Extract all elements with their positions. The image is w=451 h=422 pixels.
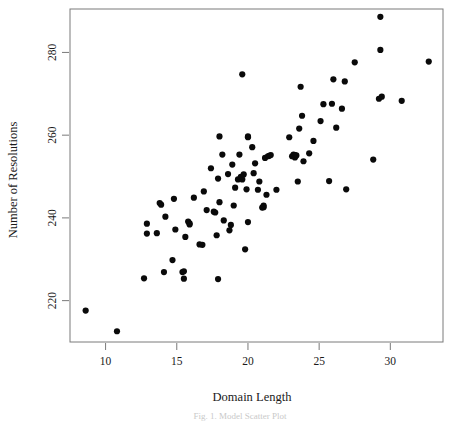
data-point [377, 47, 383, 53]
data-point [352, 59, 358, 65]
data-point [261, 202, 267, 208]
data-point [161, 269, 167, 275]
data-point [228, 222, 234, 228]
data-point [229, 161, 235, 167]
data-point [215, 176, 221, 182]
data-point [154, 230, 160, 236]
x-tick-label: 20 [242, 355, 254, 367]
data-point [226, 227, 232, 233]
data-point [296, 125, 302, 131]
y-tick-label: 240 [46, 209, 58, 227]
data-point [249, 144, 255, 150]
data-point [330, 76, 336, 82]
x-tick-label: 30 [385, 355, 397, 367]
data-point [243, 186, 249, 192]
data-point [208, 165, 214, 171]
data-point [144, 231, 150, 237]
data-point [255, 187, 261, 193]
data-point [231, 202, 237, 208]
data-point [144, 221, 150, 227]
data-point [333, 125, 339, 131]
data-point [379, 94, 385, 100]
data-point [191, 195, 197, 201]
data-point [295, 178, 301, 184]
data-point [273, 187, 279, 193]
data-point [263, 192, 269, 198]
data-point [317, 118, 323, 124]
data-point [299, 113, 305, 119]
data-point [83, 307, 89, 313]
x-tick-label: 15 [171, 355, 183, 367]
data-point [214, 232, 220, 238]
data-point [114, 328, 120, 334]
data-point [216, 199, 222, 205]
x-tick-label: 25 [313, 355, 325, 367]
data-point [320, 101, 326, 107]
data-point [204, 207, 210, 213]
data-point [239, 71, 245, 77]
figure-background [0, 0, 451, 422]
data-point [162, 214, 168, 220]
y-tick-label: 280 [46, 44, 58, 62]
data-point [241, 171, 247, 177]
data-point [182, 234, 188, 240]
x-axis-title: Domain Length [213, 390, 293, 404]
data-point [300, 158, 306, 164]
data-point [216, 133, 222, 139]
y-tick-label: 220 [46, 292, 58, 310]
data-point [252, 160, 258, 166]
data-point [225, 171, 231, 177]
data-point [181, 276, 187, 282]
data-point [370, 156, 376, 162]
data-point [232, 185, 238, 191]
data-point [141, 275, 147, 281]
data-point [172, 226, 178, 232]
data-point [298, 84, 304, 90]
data-point [236, 152, 242, 158]
data-point [399, 98, 405, 104]
data-point [326, 178, 332, 184]
data-point [186, 220, 192, 226]
data-point [306, 150, 312, 156]
data-point [286, 134, 292, 140]
data-point [242, 246, 248, 252]
data-point [256, 178, 262, 184]
data-point [169, 257, 175, 263]
data-point [339, 106, 345, 112]
data-point [426, 58, 432, 64]
data-point [221, 217, 227, 223]
data-point [377, 14, 383, 20]
data-point [181, 268, 187, 274]
data-point [343, 186, 349, 192]
data-point [245, 133, 251, 139]
data-point [199, 242, 205, 248]
plot-canvas: 1015202530 220240260280 Domain Length Nu… [0, 0, 451, 422]
data-point [201, 188, 207, 194]
data-point [245, 219, 251, 225]
data-point [329, 101, 335, 107]
data-point [310, 138, 316, 144]
data-point [293, 152, 299, 158]
data-point [268, 152, 274, 158]
y-tick-label: 260 [46, 126, 58, 144]
scatter-plot-figure: 1015202530 220240260280 Domain Length Nu… [0, 0, 451, 422]
data-point [251, 170, 257, 176]
data-point [342, 78, 348, 84]
figure-caption: Fig. 1. Model Scatter Plot [194, 411, 287, 421]
data-point [212, 209, 218, 215]
x-tick-label: 10 [100, 355, 112, 367]
y-axis-title: Number of Resolutions [6, 122, 20, 239]
data-point [215, 276, 221, 282]
data-point [219, 152, 225, 158]
data-point [158, 202, 164, 208]
data-point [171, 196, 177, 202]
